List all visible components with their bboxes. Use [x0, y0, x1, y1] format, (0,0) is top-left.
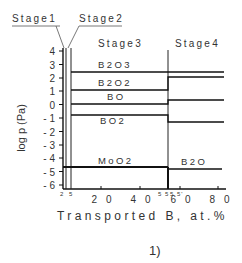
panel-label: 1) — [149, 243, 161, 258]
label-b2o3: B2O3 — [98, 59, 132, 70]
svg-text:0: 0 — [49, 100, 55, 111]
svg-text:3: 3 — [49, 60, 55, 71]
svg-text:4 0: 4 0 — [131, 194, 154, 205]
chart: Stage1 Stage2 Stage3 Stage4 4 3 2 1 0 - … — [0, 0, 242, 263]
stage3-label: Stage3 — [98, 38, 143, 49]
stage2-label: Stage2 — [79, 13, 124, 24]
series-lines — [63, 72, 224, 169]
svg-text:- 4: - 4 — [43, 153, 55, 164]
y-axis-label: log p (Pa) — [15, 104, 27, 152]
svg-text:4: 4 — [49, 46, 55, 57]
label-b2o2: B2O2 — [98, 77, 132, 88]
line-bo2 — [71, 115, 224, 122]
svg-text:5 5: 5 5 — [158, 191, 169, 197]
stage1-label: Stage1 — [12, 13, 57, 24]
x-axis-label: Transported B, at.% — [57, 209, 228, 223]
label-bo: BO — [107, 91, 126, 102]
svg-text:1: 1 — [49, 86, 55, 97]
x-minor-tick-labels: 2 5 5 5 5 5' — [60, 191, 184, 197]
svg-text:- 1: - 1 — [43, 113, 55, 124]
svg-text:5: 5 — [69, 191, 73, 197]
svg-text:- 6: - 6 — [43, 180, 55, 191]
svg-text:2: 2 — [60, 191, 64, 197]
svg-text:8 0: 8 0 — [210, 194, 233, 205]
stage4-label: Stage4 — [175, 38, 220, 49]
svg-text:6 0: 6 0 — [171, 194, 194, 205]
stage2-pointer — [68, 26, 79, 48]
label-b2o: B2O — [181, 156, 207, 167]
svg-text:- 5: - 5 — [43, 167, 55, 178]
line-bo — [71, 100, 224, 104]
y-tick-labels: 4 3 2 1 0 - 1 - 2 - 3 - 4 - 5 - 6 — [43, 46, 55, 191]
label-bo2: BO2 — [100, 115, 126, 126]
svg-text:2 0: 2 0 — [92, 194, 115, 205]
svg-text:2: 2 — [49, 73, 55, 84]
stage1-pointer — [56, 26, 64, 48]
label-moo2: MoO2 — [98, 155, 133, 166]
svg-text:- 2: - 2 — [43, 127, 55, 138]
line-b2o2 — [71, 77, 224, 90]
svg-text:- 3: - 3 — [43, 140, 55, 151]
